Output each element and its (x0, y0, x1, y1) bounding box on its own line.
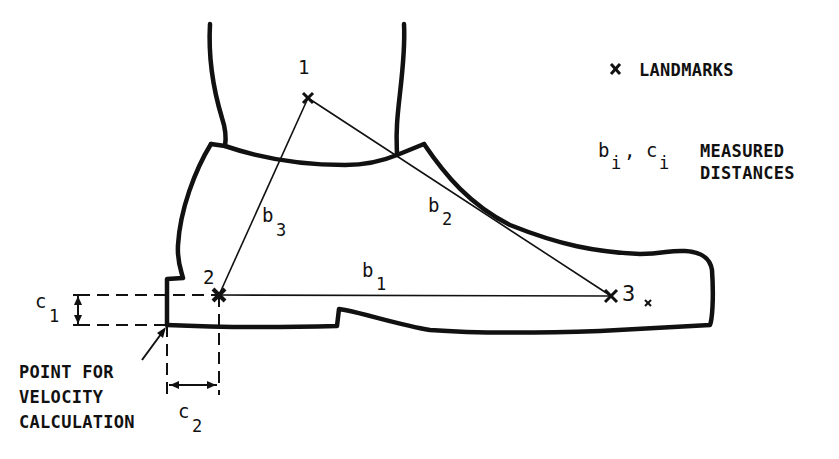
shoe-heel (167, 144, 211, 325)
b1-line (219, 295, 611, 296)
b3-subscript: 3 (276, 222, 286, 239)
c1-label: c (35, 292, 46, 311)
caption-line2: VELOCITY (19, 385, 103, 410)
landmark-2-label: 2 (203, 268, 214, 287)
shoe-collar (211, 144, 424, 165)
b3-label: b (262, 206, 273, 225)
landmark-1-marker (303, 93, 313, 103)
c1-arrowhead-bottom (74, 315, 82, 324)
legend-c-symbol: c (646, 141, 657, 160)
b1-subscript: 1 (376, 276, 386, 293)
legend-b-symbol: b (598, 141, 609, 160)
legend-comma: , (624, 141, 635, 160)
c1-arrowhead-top (74, 296, 82, 305)
legend-b-subscript: i (611, 155, 621, 172)
legend-measured-line1: MEASURED (700, 140, 784, 162)
legend-measured-line2: DISTANCES (700, 162, 795, 184)
c2-arrowhead-right (207, 381, 216, 389)
b2-subscript: 2 (442, 211, 452, 228)
c2-subscript: 2 (192, 418, 202, 435)
landmark-3-label: 3 (622, 283, 635, 305)
stray-x-mark (645, 300, 651, 306)
legend-c-subscript: i (659, 155, 669, 172)
legend-x-icon (611, 64, 620, 74)
b3-line (219, 98, 308, 295)
caption-line1: POINT FOR (19, 360, 114, 385)
c1-subscript: 1 (49, 308, 59, 325)
legend-landmarks-text: LANDMARKS (639, 59, 734, 81)
c2-label: c (178, 402, 189, 421)
c2-arrowhead-left (170, 381, 179, 389)
leg-left-outline (210, 24, 226, 146)
landmark-1-label: 1 (298, 58, 309, 77)
leg-right-outline (397, 24, 405, 155)
b1-label: b (362, 261, 373, 280)
b2-label: b (428, 196, 439, 215)
b2-line (308, 98, 611, 296)
caption-line3: CALCULATION (19, 410, 135, 435)
